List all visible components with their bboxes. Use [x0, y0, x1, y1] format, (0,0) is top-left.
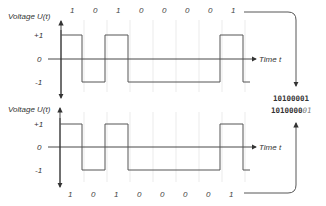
bottom-bit-labels: 1 0 1 0 0 0 0 1 [68, 190, 233, 199]
top-tick-plus1: +1 [34, 31, 43, 40]
bottom-bit: 0 [183, 190, 188, 199]
top-bit: 0 [162, 6, 167, 15]
bottom-bit: 0 [137, 190, 142, 199]
bottom-bit: 1 [229, 190, 233, 199]
top-x-axis-label: Time t [259, 55, 282, 64]
bottom-bit: 0 [206, 190, 211, 199]
bottom-bit: 1 [68, 190, 72, 199]
bottom-connector-arrow [244, 123, 296, 193]
top-bit: 0 [208, 6, 213, 15]
top-y-axis-label: Voltage U(t) [8, 12, 51, 21]
top-bit: 0 [139, 6, 144, 15]
bottom-tick-plus1: +1 [34, 120, 43, 129]
bottom-x-axis-label: Time t [259, 143, 282, 152]
bottom-chart: Voltage U(t) Time t +1 0 -1 1 0 1 0 0 0 … [8, 105, 282, 199]
output-line-2: 101000001 [271, 106, 312, 115]
top-bit: 1 [70, 6, 74, 15]
bottom-bit: 0 [91, 190, 96, 199]
top-bit: 1 [116, 6, 120, 15]
bottom-bit: 1 [114, 190, 118, 199]
top-bit: 0 [93, 6, 98, 15]
top-bit: 0 [185, 6, 190, 15]
bottom-y-axis-label: Voltage U(t) [8, 105, 51, 114]
top-bit: 1 [231, 6, 235, 15]
top-tick-minus1: -1 [35, 78, 42, 87]
output-line-2-italic: 01 [303, 106, 312, 115]
output-line-2-main: 1010000 [271, 106, 303, 115]
top-bit-labels: 1 0 1 0 0 0 0 1 [70, 6, 235, 15]
top-grid [84, 20, 245, 92]
nrz-encoding-diagram: Voltage U(t) Time t +1 0 -1 1 0 1 0 0 0 … [0, 0, 326, 206]
output-line-1: 10100001 [273, 94, 310, 103]
bottom-bit: 0 [160, 190, 165, 199]
bottom-tick-0: 0 [37, 143, 42, 152]
top-chart: Voltage U(t) Time t +1 0 -1 1 0 1 0 0 0 … [8, 6, 282, 98]
bottom-tick-minus1: -1 [35, 166, 42, 175]
top-connector-arrow [244, 12, 296, 86]
top-tick-0: 0 [37, 55, 42, 64]
